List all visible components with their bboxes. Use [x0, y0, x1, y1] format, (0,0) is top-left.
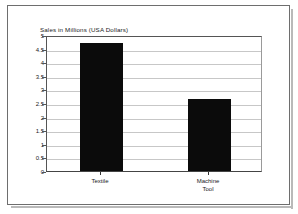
y-axis-tick-label: 3.5: [24, 74, 44, 80]
bar: [80, 43, 123, 171]
y-axis-labels: 00.511.522.533.544.55: [22, 36, 44, 172]
y-axis-tick-label: 1.5: [24, 128, 44, 134]
figure-frame-shadow-right: [291, 9, 293, 209]
y-axis-tick-label: 2.5: [24, 101, 44, 107]
figure-frame-shadow-bottom: [11, 206, 293, 208]
y-axis-tick-label: 0.5: [24, 155, 44, 161]
y-axis-tick-label: 1: [24, 142, 44, 148]
y-axis-tick-label: 2: [24, 115, 44, 121]
y-axis-tick-label: 0: [24, 169, 44, 175]
bar: [188, 99, 231, 171]
y-axis-tick-label: 4.5: [24, 47, 44, 53]
x-axis-tick-label: Machine Tool: [168, 178, 248, 193]
y-axis-tick-label: 4: [24, 60, 44, 66]
y-axis-tick-mark: [42, 172, 46, 173]
chart-title: Sales in Millions (USA Dollars): [40, 25, 128, 34]
x-axis-tick-mark: [208, 172, 209, 175]
plot-area: [46, 36, 262, 172]
y-axis-tick-label: 5: [24, 33, 44, 39]
y-axis-tick-label: 3: [24, 87, 44, 93]
x-axis-tick-mark: [100, 172, 101, 175]
x-axis-tick-label: Textile: [60, 178, 140, 186]
